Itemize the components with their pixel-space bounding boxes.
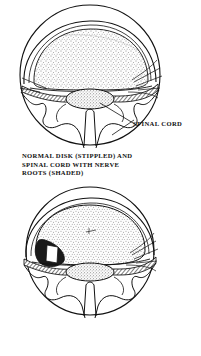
spinal-cord: [66, 263, 114, 281]
slipped-disk-diagram: [0, 185, 201, 320]
caption-normal-disk: NORMAL DISK (STIPPLED) AND SPINAL CORD W…: [22, 152, 182, 178]
callout-label-spinal-cord: SPINAL CORD: [133, 120, 182, 127]
normal-disk-diagram: [0, 0, 201, 150]
illustration-page: SPINAL CORD NORMAL DISK (STIPPLED) AND S…: [0, 0, 201, 356]
herniation-wedge: [46, 245, 58, 263]
figure-normal-disk: SPINAL CORD NORMAL DISK (STIPPLED) AND S…: [0, 0, 201, 190]
spinal-cord: [66, 89, 114, 109]
figure-slipped-disk: SLIPPED DISK (STIPPLED) IMPINGING ON NER…: [0, 185, 201, 356]
